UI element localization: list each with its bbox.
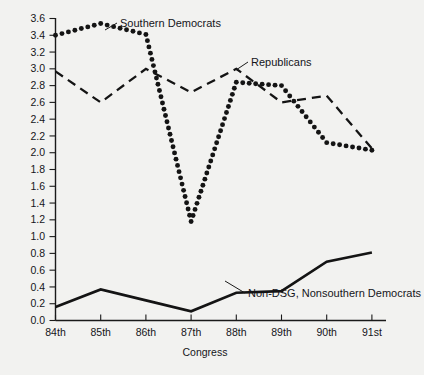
data-point: [193, 207, 198, 212]
data-point: [191, 213, 196, 218]
y-tick-label: 3.4: [30, 29, 45, 41]
data-point: [66, 29, 71, 34]
data-point: [137, 30, 142, 35]
y-tick-label: 1.8: [30, 163, 45, 175]
data-point: [200, 183, 205, 188]
data-point: [204, 171, 209, 176]
data-point: [232, 86, 237, 91]
data-point: [72, 28, 77, 33]
data-point: [222, 116, 227, 121]
data-point: [240, 80, 245, 85]
data-point: [168, 132, 173, 137]
data-point: [216, 134, 221, 139]
series-label-republicans: Republicans: [251, 56, 312, 68]
x-tick-label: 90th: [316, 326, 337, 338]
data-point: [172, 150, 177, 155]
y-tick-label: 0.0: [30, 314, 45, 326]
y-tick-label: 2.4: [30, 113, 45, 125]
data-point: [316, 130, 321, 135]
data-point: [230, 92, 235, 97]
data-point: [324, 140, 329, 145]
data-point: [344, 143, 349, 148]
data-point: [226, 104, 231, 109]
data-point: [283, 88, 288, 93]
data-point: [206, 165, 211, 170]
data-point: [184, 200, 189, 205]
data-point: [151, 63, 156, 68]
data-point: [162, 107, 167, 112]
y-tick-label: 0.4: [30, 281, 45, 293]
x-axis-title: Congress: [183, 346, 228, 358]
data-point: [53, 33, 58, 38]
y-tick-label: 1.0: [30, 230, 45, 242]
data-point: [320, 135, 325, 140]
data-point: [224, 110, 229, 115]
data-point: [148, 51, 153, 56]
data-point: [186, 207, 191, 212]
y-tick-label: 1.2: [30, 213, 45, 225]
y-tick-label: 2.0: [30, 146, 45, 158]
data-point: [149, 57, 154, 62]
y-tick-label: 2.2: [30, 130, 45, 142]
data-point: [287, 94, 292, 99]
data-point: [369, 148, 374, 153]
data-point: [363, 147, 368, 152]
y-tick-label: 0.6: [30, 264, 45, 276]
data-point: [163, 113, 168, 118]
data-point: [175, 163, 180, 168]
data-point: [98, 21, 103, 26]
x-tick-label: 84th: [45, 326, 66, 338]
data-point: [60, 31, 65, 36]
data-point: [202, 177, 207, 182]
data-point: [212, 146, 217, 151]
data-point: [234, 80, 239, 85]
x-tick-label: 86th: [136, 326, 157, 338]
y-tick-label: 0.8: [30, 247, 45, 259]
data-point: [183, 194, 188, 199]
data-point: [291, 99, 296, 104]
data-point: [273, 83, 278, 88]
chart-svg: 0.00.20.40.60.81.01.21.41.61.82.02.22.42…: [0, 0, 424, 375]
data-point: [197, 195, 202, 200]
chart-background: [0, 0, 424, 375]
data-point: [295, 104, 300, 109]
data-point: [146, 44, 151, 49]
series-label-southern-democrats: Southern Democrats: [120, 17, 221, 29]
y-tick-label: 3.6: [30, 12, 45, 24]
data-point: [228, 98, 233, 103]
data-point: [218, 128, 223, 133]
chart-figure: 0.00.20.40.60.81.01.21.41.61.82.02.22.42…: [0, 0, 424, 375]
y-tick-label: 3.0: [30, 62, 45, 74]
data-point: [210, 152, 215, 157]
y-tick-label: 2.6: [30, 96, 45, 108]
x-tick-label: 89th: [271, 326, 292, 338]
data-point: [312, 125, 317, 130]
data-point: [180, 182, 185, 187]
x-tick-label: 87th: [181, 326, 202, 338]
data-point: [247, 81, 252, 86]
data-point: [165, 119, 170, 124]
data-point: [198, 189, 203, 194]
y-tick-label: 1.6: [30, 180, 45, 192]
data-point: [92, 23, 97, 28]
data-point: [337, 142, 342, 147]
x-tick-label: 85th: [90, 326, 111, 338]
y-tick-label: 1.4: [30, 197, 45, 209]
data-point: [143, 32, 148, 37]
data-point: [85, 24, 90, 29]
data-point: [177, 169, 182, 174]
y-tick-label: 2.8: [30, 79, 45, 91]
data-point: [174, 157, 179, 162]
data-point: [131, 29, 136, 34]
x-tick-label: 91st: [362, 326, 382, 338]
y-tick-label: 3.2: [30, 46, 45, 58]
data-point: [157, 88, 162, 93]
data-point: [79, 26, 84, 31]
data-point: [214, 140, 219, 145]
data-point: [304, 114, 309, 119]
data-point: [300, 109, 305, 114]
data-point: [145, 38, 150, 43]
data-point: [308, 119, 313, 124]
data-point: [171, 144, 176, 149]
data-point: [266, 82, 271, 87]
